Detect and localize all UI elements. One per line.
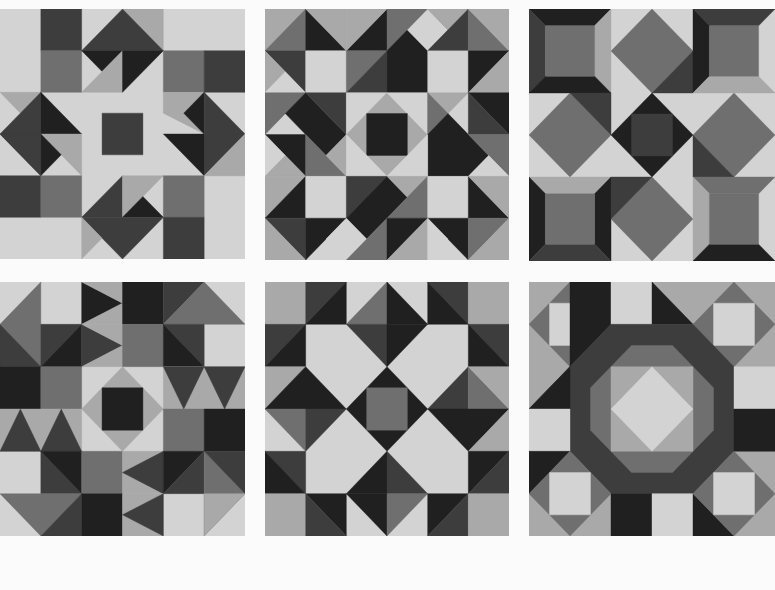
quilt-patch [0,176,41,218]
quilt-patch [102,113,143,155]
quilt-patch [468,494,509,536]
quilt-patch [82,494,123,536]
quilt-patch [41,9,82,51]
quilt-patch [734,367,775,409]
quilt-patch [82,451,123,493]
quilt-patch [652,494,693,536]
quilt-patch [367,388,408,430]
block-4-flying-geese-sampler [0,282,245,536]
page-bottom-margin [0,540,754,590]
block-1-star-with-pinwheel-arrows [0,9,245,259]
quilt-patch [41,367,82,409]
quilt-patch [367,114,408,156]
quilt-patch [41,51,82,93]
block-2-diagonal-star [265,9,509,260]
quilt-patch [709,26,758,76]
quilt-patch [709,194,758,244]
quilt-patch [163,51,204,93]
quilt-patch [428,176,469,218]
quilt-patch [611,282,652,324]
quilt-patch [102,388,143,430]
quilt-patch [545,26,594,76]
quilt-patch [714,473,755,515]
quilt-patch [428,51,469,93]
block-5-crown-star [265,282,509,536]
quilt-patch [204,51,245,93]
quilt-patch [306,176,347,218]
quilt-patch [0,367,41,409]
quilt-patch [265,494,306,536]
quilt-patch [163,409,204,451]
quilt-patch [611,494,652,536]
quilt-patch [163,217,204,259]
quilt-patch [41,176,82,218]
quilt-patch [714,303,755,345]
quilt-patch [123,282,164,324]
quilt-patch [734,409,775,451]
quilt-patch [545,194,594,244]
quilt-patch [163,176,204,218]
quilt-patch [265,282,306,324]
quilt-patch [204,409,245,451]
quilt-patch [529,409,570,451]
block-6-octagon-ring [529,282,775,536]
quilt-patch [468,282,509,324]
quilt-patch [123,324,164,366]
quilt-patch [306,51,347,93]
block-3-framed-squares-and-diamonds [529,9,775,261]
quilt-patch [550,473,591,515]
quilt-patch [632,114,673,156]
